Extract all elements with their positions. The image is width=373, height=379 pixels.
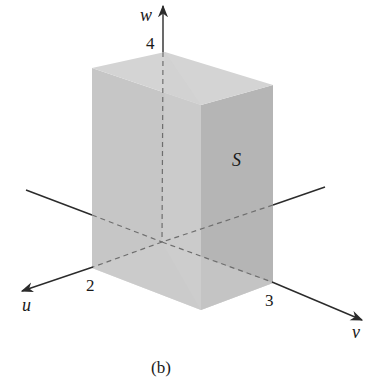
figure-caption: (b) xyxy=(151,358,171,377)
u-tick-label: 2 xyxy=(86,276,95,295)
v-axis xyxy=(272,282,362,320)
v-axis-back-segment xyxy=(273,187,325,205)
w-axis-label: w xyxy=(140,5,152,25)
u-axis xyxy=(22,267,93,291)
u-axis-back-segment xyxy=(26,190,92,215)
v-tick-label: 3 xyxy=(265,291,274,310)
uvw-box-diagram: w 4 u 2 v 3 S (b) xyxy=(0,0,373,379)
u-axis-label: u xyxy=(22,295,31,315)
region-label-s: S xyxy=(232,150,241,170)
w-tick-label: 4 xyxy=(146,34,155,53)
v-axis-label: v xyxy=(352,322,360,342)
